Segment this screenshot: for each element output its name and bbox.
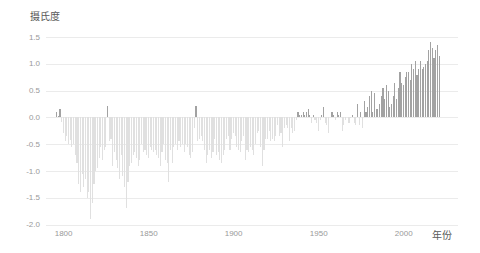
bar-negative [359, 117, 360, 125]
bar-positive [107, 106, 108, 118]
bar-negative [355, 117, 356, 125]
bar-negative [345, 117, 346, 120]
bar-positive [439, 56, 440, 118]
x-axis-tick-label: 1900 [214, 229, 254, 238]
y-axis-tick-label: -1.0 [6, 167, 40, 176]
bar-negative [194, 117, 195, 128]
y-axis-tick-label: 0.0 [6, 113, 40, 122]
y-axis-tick-label: 0.5 [6, 86, 40, 95]
y-axis-tick-label: -1.5 [6, 193, 40, 202]
chart-title: 摄氏度 [30, 8, 60, 23]
bar-negative [311, 117, 312, 122]
bar-positive [195, 106, 196, 118]
bar-negative [296, 117, 297, 120]
x-axis-tick-label: 1800 [44, 229, 84, 238]
gridline [46, 225, 458, 226]
gridline [46, 198, 458, 199]
bar-negative [328, 117, 329, 133]
bar-negative [105, 117, 106, 147]
bar-negative [320, 117, 321, 120]
x-axis-tick-label: 2000 [384, 229, 424, 238]
bar-negative [350, 117, 351, 118]
gridline [46, 91, 458, 92]
temperature-anomaly-chart: 摄氏度 1.51.00.50.0-0.5-1.0-1.5-2.018001850… [0, 0, 480, 253]
gridline [46, 37, 458, 38]
bar-negative [335, 117, 336, 120]
x-axis-tick-label: 1850 [129, 229, 169, 238]
gridline [46, 171, 458, 172]
bar-positive [59, 109, 60, 118]
bar-positive [357, 104, 358, 117]
y-axis-tick-label: -0.5 [6, 140, 40, 149]
bar-positive [323, 107, 324, 118]
gridline [46, 64, 458, 65]
y-axis-tick-label: 1.5 [6, 33, 40, 42]
y-axis-tick-label: -2.0 [6, 220, 40, 229]
bar-negative [362, 117, 363, 128]
y-axis-tick-label: 1.0 [6, 59, 40, 68]
x-axis-tick-label: 1950 [299, 229, 339, 238]
x-axis-title: 年份 [432, 227, 452, 242]
